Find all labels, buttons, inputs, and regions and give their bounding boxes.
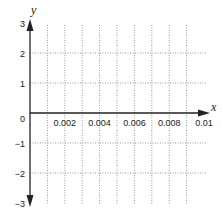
y-tick-label: −1: [15, 139, 25, 149]
y-axis-label: y: [30, 3, 37, 17]
x-tick-label: 0.008: [158, 118, 181, 128]
y-axis-down-arrow-icon: [27, 195, 34, 207]
y-tick-label: 3: [20, 19, 25, 29]
y-tick-label: 0: [20, 114, 25, 124]
x-axis-label: x: [210, 100, 217, 114]
y-tick-labels: 3210−1−2−3: [15, 19, 25, 209]
plot-area: 0.0020.0040.0060.0080.01 3210−1−2−3 x y: [0, 0, 222, 216]
y-tick-label: 1: [20, 79, 25, 89]
y-tick-label: −2: [15, 169, 25, 179]
axes: [27, 19, 211, 207]
x-tick-labels: 0.0020.0040.0060.0080.01: [54, 118, 213, 128]
x-tick-label: 0.004: [88, 118, 111, 128]
blank-graph-grid: 0.0020.0040.0060.0080.01 3210−1−2−3 x y: [0, 0, 222, 216]
x-axis-arrow-icon: [198, 110, 210, 117]
x-tick-label: 0.002: [54, 118, 77, 128]
x-tick-label: 0.01: [195, 118, 213, 128]
grid-lines: [30, 25, 207, 204]
x-tick-label: 0.006: [123, 118, 146, 128]
y-tick-label: 2: [20, 49, 25, 59]
y-axis-up-arrow-icon: [27, 19, 34, 31]
y-tick-label: −3: [15, 199, 25, 209]
